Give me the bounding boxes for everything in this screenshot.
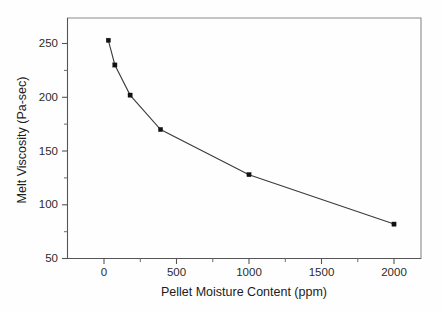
y-tick-label: 100	[39, 198, 58, 210]
x-tick-label: 2000	[381, 266, 407, 278]
x-tick-label: 0	[101, 266, 107, 278]
data-point-marker	[247, 173, 251, 177]
data-point-marker	[128, 93, 132, 97]
data-point-marker	[392, 222, 396, 226]
melt-viscosity-line-chart: 50 100 150 200 250 0 500 1000 1500	[0, 0, 442, 312]
data-point-marker	[113, 63, 117, 67]
x-axis-title: Pellet Moisture Content (ppm)	[161, 285, 327, 299]
data-point-marker	[106, 38, 110, 42]
x-tick-label: 1500	[309, 266, 335, 278]
data-point-marker	[158, 127, 162, 131]
y-axis-title: Melt Viscosity (Pa-sec)	[15, 77, 29, 204]
chart-screenshot: 50 100 150 200 250 0 500 1000 1500	[0, 0, 442, 312]
chart-background	[0, 0, 442, 312]
x-tick-label: 500	[167, 266, 186, 278]
x-tick-label: 1000	[236, 266, 262, 278]
y-tick-label: 250	[39, 37, 58, 49]
y-tick-label: 50	[45, 252, 58, 264]
y-tick-label: 200	[39, 91, 58, 103]
y-tick-label: 150	[39, 145, 58, 157]
